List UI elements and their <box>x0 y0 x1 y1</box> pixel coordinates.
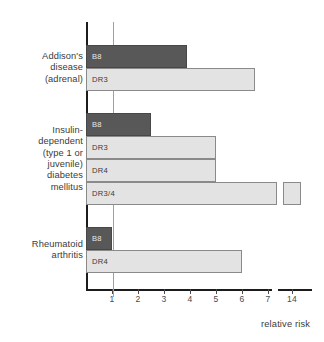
group-label-line: dependent <box>38 136 83 146</box>
bar-1-B8: B8 <box>86 113 151 136</box>
x-tick-label-4: 4 <box>188 294 193 304</box>
group-label-line: (adrenal) <box>45 74 83 84</box>
group-label-line: disease <box>50 62 83 72</box>
group-label-line: (type 1 or <box>43 148 83 158</box>
bar-2-B8: B8 <box>86 227 112 250</box>
group-label-0: Addison'sdisease(adrenal) <box>42 51 83 85</box>
bar-allele-label: B8 <box>87 234 102 243</box>
x-axis-title: relative risk <box>261 319 310 329</box>
x-tick-label-6: 6 <box>240 294 245 304</box>
bar-allele-label: DR3 <box>87 75 108 84</box>
x-axis-line-broken-segment <box>278 289 312 291</box>
bar-allele-label: DR4 <box>87 166 108 175</box>
group-label-line: mellitus <box>51 182 83 192</box>
group-label-line: Insulin- <box>52 125 83 135</box>
group-label-line: arthritis <box>52 250 83 260</box>
bar-allele-label: B8 <box>87 120 102 129</box>
x-tick-label-3: 3 <box>162 294 167 304</box>
group-label-2: Rheumatoidarthritis <box>32 239 83 262</box>
bar-0-B8: B8 <box>86 45 187 68</box>
group-label-line: juvenile) <box>47 159 83 169</box>
group-label-1: Insulin-dependent(type 1 orjuvenile)diab… <box>38 125 83 193</box>
x-tick-label-1: 1 <box>110 294 115 304</box>
bar-0-DR3: DR3 <box>86 68 255 91</box>
bar-2-DR4: DR4 <box>86 250 242 273</box>
x-tick-label-7: 7 <box>266 294 271 304</box>
x-tick-label-2: 2 <box>136 294 141 304</box>
x-tick-label-14: 14 <box>287 294 297 304</box>
bar-allele-label: DR3 <box>87 143 108 152</box>
group-label-line: Addison's <box>42 51 83 61</box>
group-label-line: diabetes <box>47 170 83 180</box>
bar-allele-label: DR4 <box>87 257 108 266</box>
bar-allele-label: DR3/4 <box>87 189 115 198</box>
x-tick-label-5: 5 <box>214 294 219 304</box>
bar-1-DR3-4: DR3/4 <box>86 182 277 205</box>
bar-allele-label: B8 <box>87 52 102 61</box>
bar-1-DR3: DR3 <box>86 136 216 159</box>
relative-risk-bar-chart: 123456714 Addison'sdisease(adrenal)Insul… <box>0 0 324 342</box>
bar-1-DR3-4-tail <box>283 182 301 205</box>
group-label-line: Rheumatoid <box>32 239 83 249</box>
bar-1-DR4: DR4 <box>86 159 216 182</box>
